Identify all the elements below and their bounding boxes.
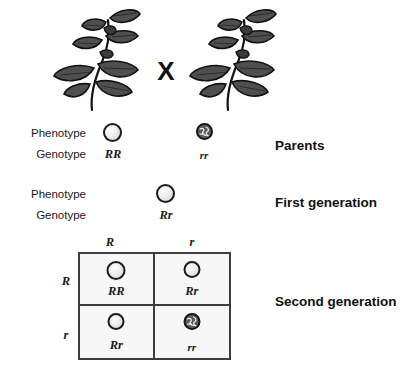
punnett-column-header-1: r [176, 235, 208, 250]
first-generation-label: First generation [275, 195, 377, 210]
punnett-cell-rr-hetero-top: Rr [155, 254, 230, 306]
punnett-cell-genotype: RR [80, 284, 153, 299]
punnett-cell-genotype: rr [155, 341, 230, 353]
round-pea-icon [183, 261, 200, 278]
cross-symbol: X [151, 55, 181, 87]
punnett-cell-rr-hetero-bottom: Rr [80, 306, 155, 358]
second-generation-label: Second generation [275, 294, 397, 309]
parent-right-genotype: rr [184, 149, 224, 161]
genetics-diagram: X [0, 0, 412, 379]
first-generation-phenotype-label: Phenotype [18, 188, 86, 200]
punnett-column-header-0: R [94, 235, 126, 250]
punnett-square: RR Rr Rr [78, 252, 231, 360]
round-pea-icon [103, 123, 122, 142]
round-pea-icon [108, 313, 125, 330]
pea-plant-right-illustration [178, 6, 298, 114]
wrinkled-pea-icon [183, 313, 200, 330]
punnett-cell-genotype: Rr [80, 338, 153, 353]
first-generation-genotype: Rr [146, 208, 186, 223]
parents-phenotype-label: Phenotype [18, 127, 86, 139]
parents-generation-label: Parents [275, 138, 325, 153]
parents-genotype-label: Genotype [18, 148, 86, 160]
punnett-cell-rr-recessive: rr [155, 306, 230, 358]
round-pea-icon [156, 184, 175, 203]
punnett-cell-rr-dominant: RR [80, 254, 155, 306]
wrinkled-pea-icon [196, 123, 213, 140]
pea-plant-left-illustration [40, 6, 160, 114]
parent-left-genotype: RR [93, 147, 133, 162]
first-generation-genotype-label: Genotype [18, 209, 86, 221]
punnett-cell-genotype: Rr [155, 284, 230, 299]
round-pea-icon [107, 261, 126, 280]
punnett-row-header-0: R [58, 274, 74, 289]
punnett-row-header-1: r [58, 328, 74, 343]
